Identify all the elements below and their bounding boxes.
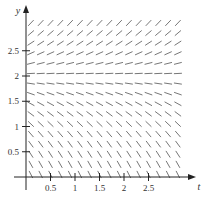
slope-segment <box>137 161 141 168</box>
slope-segment <box>156 131 161 137</box>
slope-segment <box>38 111 44 116</box>
slope-segment <box>87 131 92 137</box>
slope-segment <box>37 83 45 84</box>
slope-segment <box>67 41 74 45</box>
slope-segment <box>174 102 181 106</box>
slope-segment <box>145 111 151 116</box>
slope-segment <box>136 111 142 116</box>
slope-segment <box>88 151 92 158</box>
slope-segment <box>165 41 172 45</box>
slope-segment <box>37 52 44 55</box>
slope-segment <box>174 83 182 84</box>
slope-segment <box>125 92 133 95</box>
slope-segment <box>136 141 141 147</box>
slope-segment <box>106 41 113 45</box>
slope-segment <box>117 141 122 147</box>
slope-segment <box>106 111 112 116</box>
slope-segment <box>28 41 35 45</box>
y-tick-label: 1 <box>15 122 20 132</box>
slope-segment <box>146 151 150 158</box>
slope-segment <box>87 20 93 26</box>
slope-segment <box>175 20 181 26</box>
slope-segment <box>176 151 180 158</box>
slope-segment <box>76 83 84 84</box>
slope-segment <box>145 92 153 95</box>
slope-segment <box>37 92 45 95</box>
slope-segment <box>135 62 143 64</box>
slope-segment <box>156 20 162 26</box>
slope-segment <box>126 20 132 26</box>
slope-segment <box>27 62 35 64</box>
slope-segment <box>77 30 83 35</box>
slope-segment <box>107 141 112 147</box>
slope-segment <box>116 131 121 137</box>
slope-segment <box>146 131 151 137</box>
y-tick-label: 0.5 <box>8 147 20 157</box>
slope-segment <box>77 131 82 137</box>
x-tick-label: 2.5 <box>143 183 155 193</box>
slope-segment <box>47 41 54 45</box>
slope-segment <box>125 83 133 84</box>
slope-segment <box>87 141 92 147</box>
slope-segment <box>126 121 132 127</box>
slope-segment <box>58 151 62 158</box>
slope-segment <box>175 121 181 127</box>
slope-segment <box>48 141 53 147</box>
slope-segment <box>156 141 161 147</box>
slope-segment <box>67 111 73 116</box>
y-axis-label: y <box>15 5 21 16</box>
slope-segment <box>28 131 33 137</box>
slope-segment <box>146 121 152 127</box>
slope-segment <box>76 52 83 55</box>
slope-segment <box>145 83 153 84</box>
x-tick-label: 1.5 <box>94 183 106 193</box>
slope-segment <box>76 62 84 64</box>
plot-area: 0.511.522.50.511.522.5 t y <box>0 0 204 204</box>
slope-segment <box>175 111 181 116</box>
slope-segment <box>165 121 171 127</box>
slope-segment <box>156 151 160 158</box>
slope-segment <box>96 62 104 64</box>
slope-segment <box>49 161 53 168</box>
slope-segment <box>175 131 180 137</box>
slope-segment <box>48 121 54 127</box>
slope-segment <box>47 92 55 95</box>
x-axis-label: t <box>198 181 201 192</box>
slope-segment <box>126 41 133 45</box>
slope-segment <box>155 30 161 35</box>
slope-segment <box>115 92 123 95</box>
slope-segments <box>27 20 182 178</box>
slope-segment <box>155 92 163 95</box>
slope-segment <box>136 20 142 26</box>
x-tick-label: 1 <box>73 183 78 193</box>
slope-segment <box>145 30 151 35</box>
slope-segment <box>76 92 84 95</box>
slope-segment <box>78 161 82 168</box>
slope-segment <box>97 20 103 26</box>
slope-segment <box>38 131 43 137</box>
slope-segment <box>154 62 162 64</box>
slope-segment <box>57 121 63 127</box>
slope-segment <box>56 62 64 64</box>
slope-segment <box>86 62 94 64</box>
slope-segment <box>107 151 111 158</box>
slope-segment <box>155 102 162 106</box>
slope-segment <box>125 62 133 64</box>
slope-segment <box>27 83 35 84</box>
slope-segment <box>47 30 53 35</box>
slope-segment <box>38 20 44 26</box>
x-tick-label: 0.5 <box>45 183 57 193</box>
slope-segment <box>155 41 162 45</box>
slope-segment <box>67 121 73 127</box>
slope-segment <box>127 161 131 168</box>
slope-segment <box>164 52 171 55</box>
slope-segment <box>86 52 93 55</box>
slope-segment <box>86 92 94 95</box>
slope-segment <box>154 83 162 84</box>
slope-segment <box>135 92 143 95</box>
x-axis-arrow-icon <box>188 174 196 180</box>
slope-segment <box>135 102 142 106</box>
slope-segment <box>164 62 172 64</box>
slope-segment <box>56 83 64 84</box>
slope-segment <box>57 102 64 106</box>
